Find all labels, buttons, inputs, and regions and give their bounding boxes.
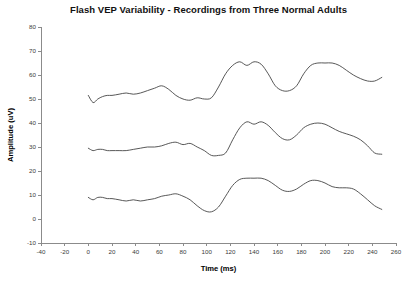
y-tick-label: 50 (29, 95, 36, 102)
chart-plot-area: -40-200204060801001201401601802002202402… (0, 0, 417, 284)
waveform-trace-2 (88, 122, 381, 156)
waveform-trace-3 (88, 178, 381, 212)
x-tick-label: 140 (249, 248, 260, 255)
x-tick-label: 180 (296, 248, 307, 255)
y-tick-label: 70 (29, 47, 36, 54)
y-tick-label: -10 (27, 239, 37, 246)
x-tick-label: 40 (132, 248, 139, 255)
x-tick-label: 160 (273, 248, 284, 255)
x-tick-label: 240 (367, 248, 378, 255)
y-tick-label: 40 (29, 119, 36, 126)
y-axis-ticks: -1001020304050607080 (27, 23, 41, 246)
x-tick-label: 20 (109, 248, 116, 255)
x-tick-label: 260 (391, 248, 402, 255)
y-axis-title: Amplitude (uV) (6, 108, 15, 162)
vep-chart-figure: Flash VEP Variability - Recordings from … (0, 0, 417, 284)
y-tick-label: 80 (29, 23, 36, 30)
x-tick-label: 80 (180, 248, 187, 255)
x-tick-label: 100 (202, 248, 213, 255)
x-tick-label: 0 (87, 248, 91, 255)
x-tick-label: 120 (225, 248, 236, 255)
y-tick-label: 20 (29, 167, 36, 174)
x-axis-ticks: -40-200204060801001201401601802002202402… (37, 243, 402, 255)
y-tick-label: 0 (33, 215, 37, 222)
waveform-traces (88, 62, 381, 212)
y-tick-label: 10 (29, 191, 36, 198)
x-tick-label: 200 (320, 248, 331, 255)
y-tick-label: 30 (29, 143, 36, 150)
waveform-trace-1 (88, 62, 381, 103)
x-tick-label: -20 (60, 248, 70, 255)
x-axis-title: Time (ms) (201, 264, 237, 273)
y-tick-label: 60 (29, 71, 36, 78)
x-tick-label: 220 (344, 248, 355, 255)
x-tick-label: -40 (37, 248, 47, 255)
x-tick-label: 60 (156, 248, 163, 255)
